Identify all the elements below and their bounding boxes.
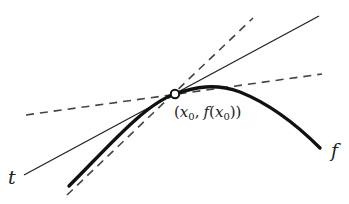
point-label: (x0,f(x0))	[174, 103, 241, 122]
tangent-label: t	[8, 166, 16, 188]
tangent-point-marker	[171, 90, 179, 98]
function-curve-f	[69, 87, 320, 186]
point-label-comma: ,	[195, 103, 200, 121]
function-label: f	[329, 139, 341, 161]
secant-line-steep	[67, 18, 253, 195]
tangent-diagram: t f (x0,f(x0))	[0, 0, 349, 204]
point-label-close: ))	[230, 103, 242, 121]
